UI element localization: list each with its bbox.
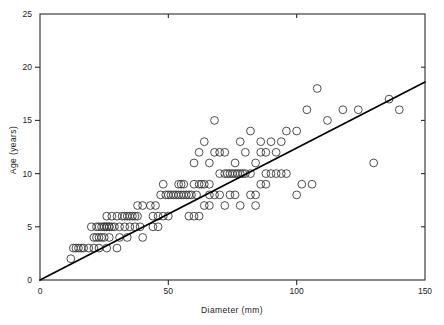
scatter-plot-svg: 0501001500510152025 Diameter (mm) Age (y…	[0, 0, 444, 325]
y-tick-label: 5	[27, 222, 32, 232]
x-tick-label: 50	[164, 286, 174, 296]
chart-figure: 0501001500510152025 Diameter (mm) Age (y…	[0, 0, 444, 325]
y-tick-label: 20	[23, 62, 33, 72]
y-axis-label: Age (years)	[8, 126, 18, 174]
y-tick-label: 25	[23, 9, 33, 19]
x-tick-label: 0	[38, 286, 43, 296]
x-tick-label: 100	[290, 286, 304, 296]
x-tick-label: 150	[418, 286, 432, 296]
y-tick-label: 10	[23, 169, 33, 179]
x-axis-label: Diameter (mm)	[201, 305, 263, 315]
y-tick-label: 15	[23, 115, 33, 125]
y-tick-label: 0	[27, 275, 32, 285]
